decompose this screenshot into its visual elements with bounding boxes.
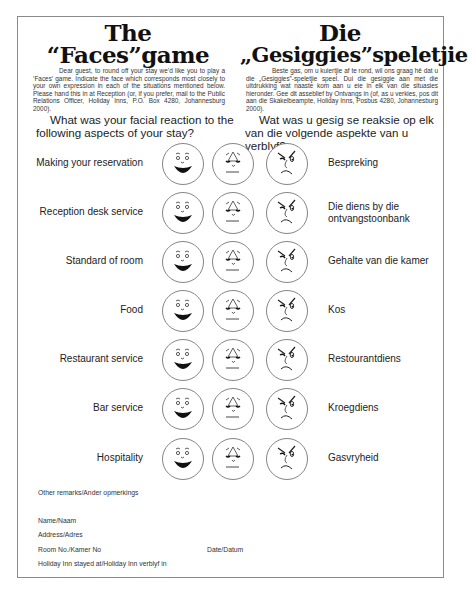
name-field[interactable]: Name/Naam <box>38 517 76 524</box>
holiday-inn-stayed-at-field[interactable]: Holiday Inn stayed at/Holiday Inn verbly… <box>38 560 166 567</box>
title-english: The “Faces”game <box>28 22 228 66</box>
question-english: What was your facial reaction to the fol… <box>36 113 236 139</box>
aspect-row: Bar service Kroegdiens <box>0 385 470 433</box>
aspect-row: Restaurant service Restourantdiens <box>0 336 470 384</box>
angry-face-icon[interactable] <box>265 142 309 186</box>
neutral-face-icon[interactable] <box>211 142 255 186</box>
angry-face-icon[interactable] <box>265 338 309 382</box>
aspect-label-afrikaans: Bespreking <box>328 157 438 169</box>
happy-face-icon[interactable] <box>161 387 205 431</box>
aspect-label-english: Food <box>0 304 143 315</box>
aspect-label-english: Making your reservation <box>0 157 143 168</box>
neutral-face-icon[interactable] <box>211 338 255 382</box>
address-field[interactable]: Address/Adres <box>38 531 83 538</box>
angry-face-icon[interactable] <box>265 387 309 431</box>
title-afrikaans-line1: Die <box>240 22 440 44</box>
happy-face-icon[interactable] <box>161 437 205 481</box>
aspect-label-english: Bar service <box>0 402 143 413</box>
aspect-label-afrikaans: Gasvryheid <box>328 452 438 464</box>
angry-face-icon[interactable] <box>265 289 309 333</box>
angry-face-icon[interactable] <box>265 437 309 481</box>
date-field[interactable]: Date/Datum <box>207 546 243 553</box>
angry-face-icon[interactable] <box>265 240 309 284</box>
happy-face-icon[interactable] <box>161 240 205 284</box>
neutral-face-icon[interactable] <box>211 387 255 431</box>
neutral-face-icon[interactable] <box>211 289 255 333</box>
aspect-row: Reception desk service Die diens by die … <box>0 189 470 237</box>
happy-face-icon[interactable] <box>161 191 205 235</box>
aspect-label-english: Reception desk service <box>0 206 143 217</box>
intro-english: Dear guest, to round off your stay we’d … <box>33 67 225 113</box>
happy-face-icon[interactable] <box>161 289 205 333</box>
angry-face-icon[interactable] <box>265 191 309 235</box>
aspect-label-english: Standard of room <box>0 255 143 266</box>
room-number-field[interactable]: Room No./Kamer No <box>38 546 101 553</box>
aspect-row: Food Kos <box>0 287 470 335</box>
aspect-row: Standard of room Gehalte van die kamer <box>0 238 470 286</box>
aspect-label-afrikaans: Gehalte van die kamer <box>328 255 438 267</box>
aspect-label-afrikaans: Kos <box>328 304 438 316</box>
happy-face-icon[interactable] <box>161 338 205 382</box>
neutral-face-icon[interactable] <box>211 437 255 481</box>
title-afrikaans-line2: „Gesiggies”speletjie <box>240 44 440 66</box>
title-english-line2: “Faces”game <box>28 44 228 66</box>
intro-afrikaans: Beste gas, om u kuiertjie af te rond, wi… <box>246 67 438 113</box>
neutral-face-icon[interactable] <box>211 240 255 284</box>
aspect-row: Hospitality Gasvryheid <box>0 435 470 483</box>
neutral-face-icon[interactable] <box>211 191 255 235</box>
happy-face-icon[interactable] <box>161 142 205 186</box>
aspect-label-afrikaans: Kroegdiens <box>328 402 438 414</box>
aspect-label-afrikaans: Restourantdiens <box>328 353 438 365</box>
aspect-label-english: Restaurant service <box>0 353 143 364</box>
other-remarks-field[interactable]: Other remarks/Ander opmerkings <box>38 489 138 496</box>
aspect-row: Making your reservation Bespreking <box>0 140 470 188</box>
aspect-label-afrikaans: Die diens by die ontvangstoonbank <box>328 201 418 225</box>
aspect-label-english: Hospitality <box>0 452 143 463</box>
title-afrikaans: Die „Gesiggies”speletjie <box>240 22 440 66</box>
